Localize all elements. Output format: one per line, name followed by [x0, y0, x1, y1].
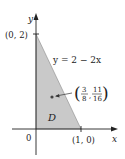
centroid-point — [50, 95, 53, 98]
centroid-open-paren: ( — [74, 83, 81, 103]
centroid-y-numerator: 11 — [93, 86, 102, 94]
y-axis-label: y — [27, 14, 34, 24]
x-axis-arrow-icon — [111, 127, 118, 132]
y-intercept-label: (0, 2) — [5, 30, 28, 40]
region-diagram: y (0, 2) y = 2 − 2x D 0 (1, 0) x ( 3 8 ,… — [0, 0, 125, 159]
centroid-x-numerator: 3 — [82, 86, 86, 94]
centroid-separator: , — [89, 92, 91, 100]
centroid-x-denominator: 8 — [82, 95, 86, 103]
centroid-label: ( 3 8 , 11 16 ) — [74, 83, 109, 103]
region-d — [36, 34, 81, 129]
x-axis-label: x — [112, 134, 117, 144]
origin-label: 0 — [26, 133, 31, 143]
centroid-close-paren: ) — [102, 83, 109, 103]
x-intercept-label: (1, 0) — [72, 135, 95, 145]
y-axis-arrow-icon — [34, 13, 39, 20]
region-label: D — [47, 112, 56, 123]
line-equation-label: y = 2 − 2x — [52, 55, 101, 65]
